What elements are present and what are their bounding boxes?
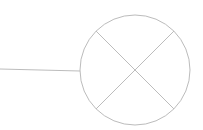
wire-lead xyxy=(0,69,80,71)
lamp-symbol-icon xyxy=(80,15,190,125)
schematic-svg xyxy=(0,0,203,130)
diagram-canvas xyxy=(0,0,203,130)
